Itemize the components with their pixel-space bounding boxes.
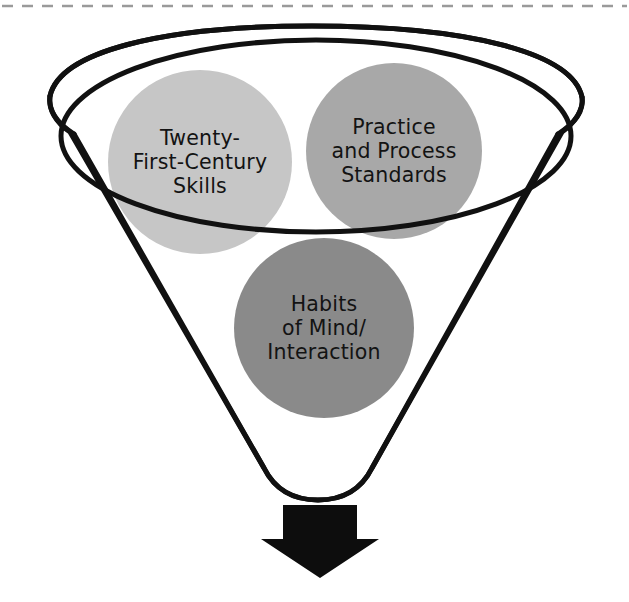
circle-practice-and-process-standards xyxy=(306,63,482,239)
output-arrow xyxy=(261,505,379,578)
circle-habits-of-mind-interaction xyxy=(234,238,414,418)
funnel-diagram: Twenty- First-Century Skills Practice an… xyxy=(0,0,629,602)
circle-twenty-first-century-skills xyxy=(108,70,292,254)
funnel-diagram-canvas xyxy=(0,0,629,602)
